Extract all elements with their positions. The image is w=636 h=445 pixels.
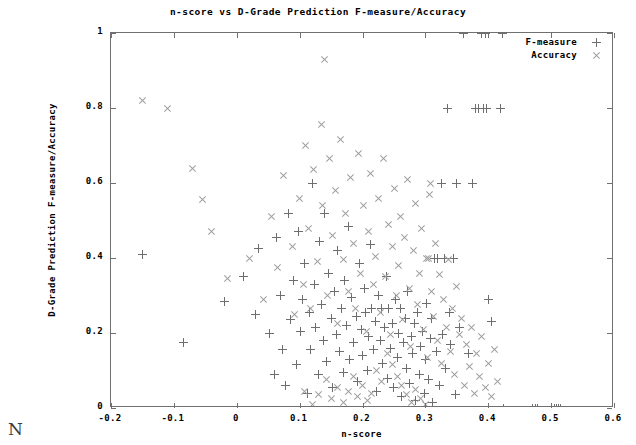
x-axis-tick <box>174 403 175 408</box>
data-point-plus <box>300 259 309 268</box>
data-point-plus <box>294 227 303 236</box>
data-point-cross <box>354 149 363 158</box>
data-point-cross <box>267 212 276 221</box>
data-point-cross <box>403 175 412 184</box>
data-point-cross <box>349 372 358 381</box>
data-point-cross <box>442 323 451 332</box>
data-point-plus <box>418 327 427 336</box>
data-point-plus <box>292 360 301 369</box>
data-point-plus <box>342 321 351 330</box>
data-point-cross <box>359 201 368 210</box>
data-point-plus <box>327 314 336 323</box>
data-point-cross <box>444 255 453 264</box>
data-point-cross <box>388 360 397 369</box>
data-point-plus <box>332 330 341 339</box>
data-point-cross <box>301 141 310 150</box>
x-axis-tick-top <box>363 33 364 38</box>
data-point-plus <box>367 304 376 313</box>
data-point-plus <box>324 269 333 278</box>
data-point-cross <box>377 377 386 386</box>
data-point-plus <box>251 310 260 319</box>
data-point-cross <box>455 330 464 339</box>
data-point-plus <box>270 370 279 379</box>
data-point-plus <box>437 179 446 188</box>
data-point-cross <box>423 353 432 362</box>
data-point-cross <box>290 310 299 319</box>
y-axis-tick-right <box>607 333 612 334</box>
x-axis-tick-label: 0.1 <box>276 413 322 423</box>
x-axis-tick <box>488 403 489 408</box>
stray-page-glyph: N <box>8 419 23 439</box>
x-axis-tick-top <box>614 33 615 38</box>
data-point-plus <box>421 355 430 364</box>
data-point-cross <box>374 194 383 203</box>
y-axis-tick-right <box>607 408 612 409</box>
data-point-plus <box>345 355 354 364</box>
data-point-cross <box>392 291 401 300</box>
data-point-plus <box>426 334 435 343</box>
data-point-cross <box>279 171 288 180</box>
data-point-plus <box>369 345 378 354</box>
data-point-cross <box>339 255 348 264</box>
data-point-cross <box>475 372 484 381</box>
data-point-cross <box>470 389 479 398</box>
data-point-plus <box>310 280 319 289</box>
data-point-plus <box>396 304 405 313</box>
x-axis-tick-top <box>425 33 426 38</box>
data-point-plus <box>138 250 147 259</box>
data-point-cross <box>333 319 342 328</box>
data-point-plus <box>440 254 449 263</box>
data-point-plus <box>374 291 383 300</box>
data-point-plus <box>405 379 414 388</box>
data-point-plus <box>471 104 480 113</box>
data-point-plus <box>377 304 386 313</box>
data-point-cross <box>207 227 216 236</box>
data-point-plus <box>397 392 406 401</box>
data-point-cross <box>452 282 461 291</box>
data-point-plus <box>330 287 339 296</box>
x-axis-tick <box>425 403 426 408</box>
data-point-cross <box>371 252 380 261</box>
data-point-plus <box>389 383 398 392</box>
plot-frame <box>110 32 613 407</box>
legend-entry: Accuracy <box>495 49 607 62</box>
data-point-cross <box>273 263 282 272</box>
data-point-plus <box>474 104 483 113</box>
data-point-plus <box>340 276 349 285</box>
data-point-plus <box>306 345 315 354</box>
data-point-cross <box>409 246 418 255</box>
data-point-cross <box>331 186 340 195</box>
data-point-cross <box>288 242 297 251</box>
data-point-plus <box>357 325 366 334</box>
data-point-plus <box>487 317 496 326</box>
data-point-plus <box>449 254 458 263</box>
x-axis-tick-label: -0.1 <box>150 413 196 423</box>
data-point-cross <box>372 366 381 375</box>
data-point-cross <box>295 194 304 203</box>
data-point-plus <box>438 330 447 339</box>
y-axis-tick-right <box>607 108 612 109</box>
data-point-plus <box>298 295 307 304</box>
data-point-cross <box>341 209 350 218</box>
data-point-plus <box>333 246 342 255</box>
data-point-plus <box>391 295 400 304</box>
data-point-cross <box>429 312 438 321</box>
data-point-cross <box>481 383 490 392</box>
data-point-plus <box>401 314 410 323</box>
data-point-cross <box>384 220 393 229</box>
data-point-cross <box>425 190 434 199</box>
data-point-plus <box>382 272 391 281</box>
data-point-cross <box>325 154 334 163</box>
data-point-plus <box>254 244 263 253</box>
data-point-cross <box>306 304 315 313</box>
data-point-plus <box>384 304 393 313</box>
data-point-cross <box>369 280 378 289</box>
data-point-plus <box>220 297 229 306</box>
data-point-cross <box>487 392 496 401</box>
scatter-plot-figure: n-score vs D-Grade Prediction F-measure/… <box>0 0 636 445</box>
data-point-plus <box>339 368 348 377</box>
legend-cross-icon <box>592 51 601 60</box>
data-point-cross <box>433 336 442 345</box>
data-point-plus <box>289 276 298 285</box>
x-axis-tick <box>551 403 552 408</box>
